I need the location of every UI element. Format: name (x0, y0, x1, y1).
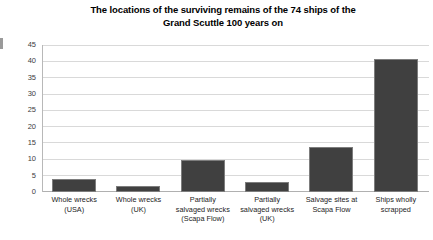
x-label-ships-wholly-scrapped: Ships wholly scrapped (364, 195, 428, 214)
bar-partially-salvaged-uk (245, 182, 289, 192)
x-axis-category-labels: Whole wrecks (USA) Whole wrecks (UK) Par… (42, 195, 428, 240)
bar-salvage-sites-scapa-flow (309, 147, 353, 192)
y-tick-15: 15 (6, 139, 36, 147)
bar-chart: The locations of the surviving remains o… (0, 0, 433, 240)
x-label-line: (USA) (42, 205, 106, 215)
x-label-line: salvaged wrecks (169, 205, 237, 215)
x-label-line: salvaged wrecks (233, 205, 301, 215)
y-tick-25: 25 (6, 106, 36, 114)
x-label-line: Ships wholly (364, 195, 428, 205)
x-label-line: Partially (169, 195, 237, 205)
bar-ships-wholly-scrapped (374, 59, 418, 192)
bar-slot-2 (171, 45, 235, 192)
bar-whole-wrecks-uk (116, 186, 160, 193)
bar-slot-3 (235, 45, 299, 192)
chart-title-line-1: The locations of the surviving remains o… (38, 4, 408, 17)
y-tick-45: 45 (6, 41, 36, 49)
y-tick-0: 0 (6, 188, 36, 196)
bar-slot-1 (106, 45, 170, 192)
y-tick-30: 30 (6, 90, 36, 98)
y-tick-10: 10 (6, 155, 36, 163)
y-tick-40: 40 (6, 57, 36, 65)
x-label-line: Partially (233, 195, 301, 205)
bar-series (42, 45, 428, 192)
x-label-line: (UK) (233, 214, 301, 224)
bar-slot-4 (299, 45, 363, 192)
x-label-line: (UK) (106, 205, 170, 215)
bar-whole-wrecks-usa (52, 179, 96, 192)
x-label-partially-salvaged-uk: Partially salvaged wrecks (UK) (233, 195, 301, 224)
x-label-line: Scapa Flow (297, 205, 365, 215)
chart-title: The locations of the surviving remains o… (38, 4, 408, 29)
bar-partially-salvaged-scapa-flow (181, 160, 225, 192)
x-label-line: Whole wrecks (106, 195, 170, 205)
y-tick-5: 5 (6, 172, 36, 180)
x-label-line: scrapped (364, 205, 428, 215)
y-tick-35: 35 (6, 74, 36, 82)
x-label-salvage-sites-scapa-flow: Salvage sites at Scapa Flow (297, 195, 365, 214)
x-label-whole-wrecks-usa: Whole wrecks (USA) (42, 195, 106, 214)
x-label-partially-salvaged-scapa-flow: Partially salvaged wrecks (Scapa Flow) (169, 195, 237, 224)
bar-slot-0 (42, 45, 106, 192)
y-axis-tick-labels: 45 40 35 30 25 20 15 10 5 0 (0, 45, 40, 192)
x-label-line: Salvage sites at (297, 195, 365, 205)
chart-title-line-2: Grand Scuttle 100 years on (38, 17, 408, 30)
bar-slot-5 (364, 45, 428, 192)
x-label-line: Whole wrecks (42, 195, 106, 205)
x-label-whole-wrecks-uk: Whole wrecks (UK) (106, 195, 170, 214)
y-tick-20: 20 (6, 123, 36, 131)
x-label-line: (Scapa Flow) (169, 214, 237, 224)
